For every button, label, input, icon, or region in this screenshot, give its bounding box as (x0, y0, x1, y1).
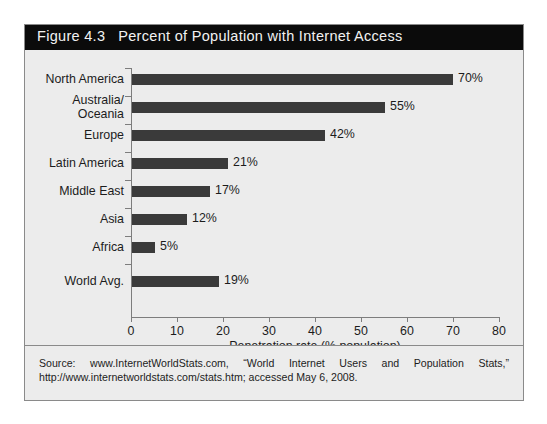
y-axis-tick (125, 68, 131, 69)
x-axis-tick (315, 317, 316, 322)
category-label: North America (25, 73, 124, 87)
bar-row: Middle East 17% (25, 180, 523, 208)
bar-row: Latin America 21% (25, 152, 523, 180)
bar-value-label: 70% (458, 71, 483, 85)
bar-row: World Avg. 19% (25, 264, 523, 292)
x-axis-tick (499, 317, 500, 322)
y-axis-tick (125, 96, 131, 97)
bar (132, 242, 155, 253)
y-axis-tick (125, 264, 131, 265)
bar (132, 130, 325, 141)
category-label: Middle East (25, 185, 124, 199)
x-axis-tick-label: 20 (208, 324, 238, 338)
x-axis-tick-label: 70 (438, 324, 468, 338)
bar (132, 186, 210, 197)
bar (132, 158, 228, 169)
x-axis-tick (131, 317, 132, 322)
y-axis-tick (125, 152, 131, 153)
bar-row: Australia/ Oceania 55% (25, 96, 523, 124)
x-axis-tick (223, 317, 224, 322)
category-label: Asia (25, 213, 124, 227)
x-axis-tick-label: 50 (346, 324, 376, 338)
chart-area: North America 70% Australia/ Oceania 55%… (25, 50, 523, 345)
x-axis-tick-label: 60 (392, 324, 422, 338)
x-axis-tick (453, 317, 454, 322)
bar-value-label: 42% (330, 127, 355, 141)
figure-title: Figure 4.3 Percent of Population with In… (37, 28, 403, 44)
bar-value-label: 17% (215, 183, 240, 197)
bar-row: Africa 5% (25, 236, 523, 264)
x-axis-tick-label: 40 (300, 324, 330, 338)
bar-value-label: 5% (160, 239, 178, 253)
category-label: Latin America (25, 157, 124, 171)
x-axis-tick (269, 317, 270, 322)
y-axis-tick (125, 208, 131, 209)
bar-row: Asia 12% (25, 208, 523, 236)
figure-title-bar: Figure 4.3 Percent of Population with In… (25, 25, 523, 50)
x-axis-tick-label: 10 (162, 324, 192, 338)
bar-value-label: 55% (390, 99, 415, 113)
plot-region: North America 70% Australia/ Oceania 55%… (25, 50, 523, 345)
y-axis-tick (125, 124, 131, 125)
category-label: World Avg. (25, 275, 124, 289)
bar (132, 102, 385, 113)
x-axis-tick (407, 317, 408, 322)
x-axis-tick (177, 317, 178, 322)
bar-value-label: 12% (192, 211, 217, 225)
bar-value-label: 19% (224, 273, 249, 287)
y-axis-tick (125, 236, 131, 237)
bar-row: Europe 42% (25, 124, 523, 152)
source-note-area: Source: www.InternetWorldStats.com, “Wor… (25, 346, 523, 400)
x-axis-tick-label: 80 (484, 324, 514, 338)
bar-row: North America 70% (25, 68, 523, 96)
bar (132, 276, 219, 287)
bar (132, 214, 187, 225)
bar-value-label: 21% (233, 155, 258, 169)
category-label: Europe (25, 129, 124, 143)
x-axis-tick (361, 317, 362, 322)
category-label: Africa (25, 241, 124, 255)
x-axis-tick-label: 0 (116, 324, 146, 338)
figure-container: Figure 4.3 Percent of Population with In… (24, 24, 524, 401)
category-label: Australia/ Oceania (25, 94, 124, 121)
x-axis-tick-label: 30 (254, 324, 284, 338)
source-note: Source: www.InternetWorldStats.com, “Wor… (39, 357, 509, 384)
bar (132, 74, 453, 85)
y-axis-tick (125, 180, 131, 181)
